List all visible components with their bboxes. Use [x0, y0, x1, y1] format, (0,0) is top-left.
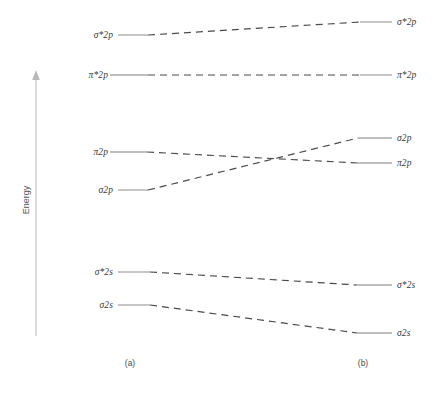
connector-sigma-2p [148, 138, 358, 190]
label-left-sigma-2s: σ2s [100, 300, 113, 310]
label-left-sigma-2p: σ2p [99, 185, 114, 195]
connector-sigma-star-2p [148, 22, 360, 35]
label-right-sigma-star-2p: σ*2p [397, 17, 416, 27]
energy-axis-arrowhead [32, 70, 40, 80]
energy-axis [32, 70, 40, 336]
label-right-sigma-2p: σ2p [397, 133, 412, 143]
label-left-sigma-star-2p: σ*2p [94, 30, 113, 40]
label-right-pi-2p: π2p [397, 158, 412, 168]
label-left-pi-star-2p: π*2p [89, 70, 108, 80]
panel-caption-a: (a) [125, 358, 135, 368]
panel-caption-b: (b) [358, 358, 368, 368]
energy-axis-label: Energy [21, 186, 31, 215]
label-right-pi-star-2p: π*2p [397, 70, 416, 80]
label-right-sigma-star-2s: σ*2s [397, 280, 415, 290]
label-left-pi-2p: π2p [93, 147, 108, 157]
label-left-sigma-star-2s: σ*2s [95, 267, 113, 277]
connector-sigma-star-2s [150, 272, 357, 285]
level-sigma-2s [118, 305, 392, 333]
level-sigma-star-2s [118, 272, 392, 285]
level-sigma-2p [118, 138, 392, 190]
level-sigma-star-2p [118, 22, 392, 35]
mo-energy-diagram: Energy σ*2p π*2p π2p σ2p σ*2s σ2s σ*2p π… [0, 0, 443, 393]
label-right-sigma-2s: σ2s [397, 328, 410, 338]
connector-sigma-2s [150, 305, 357, 333]
level-pi-2p [110, 152, 392, 163]
mo-diagram-canvas [0, 0, 443, 393]
connector-pi-2p [147, 152, 358, 163]
